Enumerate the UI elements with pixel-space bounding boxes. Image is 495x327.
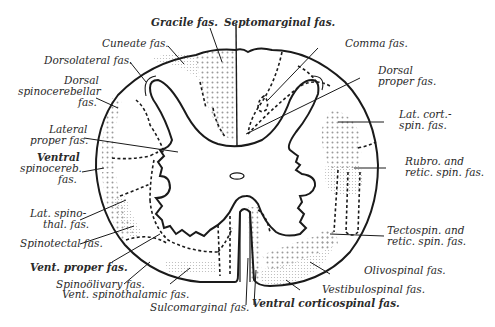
label-ventral-spinocereb-3: fas. bbox=[57, 173, 77, 185]
label-vent-spinothalamic: Vent. spinothalamic fas. bbox=[62, 288, 189, 300]
label-septomarginal: Septomarginal fas. bbox=[224, 16, 335, 28]
sulcomarginal-region bbox=[165, 262, 216, 273]
label-spinotectal: Spinotectal fas. bbox=[20, 237, 103, 249]
lat-corticospinal-region bbox=[322, 110, 362, 168]
label-dorsal-spinocerebellar-3: fas. bbox=[77, 96, 97, 108]
label-comma: Comma fas. bbox=[345, 37, 408, 49]
spinal-cord-diagram: Gracile fas. Septomarginal fas. Cuneate … bbox=[0, 0, 495, 327]
label-lateral-proper-2: proper fas. bbox=[30, 134, 88, 146]
label-vestibulospinal: Vestibulospinal fas. bbox=[322, 283, 425, 295]
gracile-fasciculus-region bbox=[196, 49, 236, 140]
label-dorsal-proper-2: proper fas. bbox=[378, 75, 436, 87]
label-ventral-corticospinal: Ventral corticospinal fas. bbox=[252, 297, 400, 309]
label-dorsolateral: Dorsolateral fas. bbox=[43, 54, 132, 66]
rubrospinal-region bbox=[325, 165, 362, 195]
label-lat-spinothal-2: thal. fas. bbox=[43, 218, 89, 230]
label-rubro-retic-2: retic. spin. fas. bbox=[405, 166, 484, 178]
label-lat-cort-spin-2: spin. fas. bbox=[399, 119, 447, 131]
label-tectospin-retic-2: retic. spin. fas. bbox=[387, 235, 466, 247]
label-vent-proper: Vent. proper fas. bbox=[30, 261, 128, 273]
label-cuneate: Cuneate fas. bbox=[102, 37, 169, 49]
label-sulcomarginal: Sulcomarginal fas. bbox=[150, 301, 249, 313]
label-olivospinal: Olivospinal fas. bbox=[364, 264, 446, 276]
label-gracile: Gracile fas. bbox=[151, 16, 218, 28]
dorsal-median-septum bbox=[236, 24, 237, 148]
